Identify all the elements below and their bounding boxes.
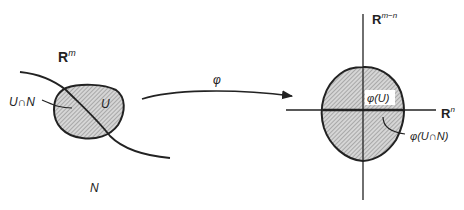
phi-label: φ bbox=[213, 73, 221, 87]
rn-label: Rn bbox=[441, 105, 455, 121]
right-space: φ(U) φ(U∩N) Rm−n Rn bbox=[286, 11, 455, 200]
left-space: Rm U∩N U N bbox=[9, 48, 170, 195]
map-phi: φ bbox=[142, 73, 292, 99]
rm-label: Rm bbox=[58, 48, 76, 65]
u-label: U bbox=[101, 97, 110, 111]
phi-u-label: φ(U) bbox=[367, 92, 390, 104]
rm-minus-n-label: Rm−n bbox=[372, 11, 398, 27]
phi-u-cap-n-label: φ(U∩N) bbox=[410, 130, 449, 142]
phi-arrow bbox=[142, 91, 292, 99]
diagram-canvas: Rm U∩N U N φ φ(U) φ(U∩N) Rm−n Rn bbox=[0, 0, 464, 210]
n-label: N bbox=[90, 181, 99, 195]
u-cap-n-label: U∩N bbox=[9, 95, 35, 109]
